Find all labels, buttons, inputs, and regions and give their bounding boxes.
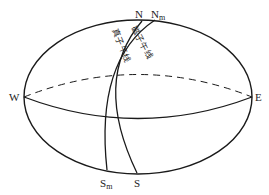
equator-front bbox=[24, 97, 252, 119]
label-south-true: S bbox=[134, 177, 140, 189]
label-south-magnetic: Sm bbox=[100, 177, 113, 191]
label-true-meridian: 真子午线 bbox=[110, 27, 133, 64]
label-east: E bbox=[255, 91, 262, 103]
label-north-true: N bbox=[135, 8, 143, 20]
label-north-magnetic: Nm bbox=[151, 8, 166, 22]
meridian-diagram: N Nm Sm S W E 真子午线 磁子午线 bbox=[0, 0, 269, 195]
equator-back-dashed bbox=[24, 75, 252, 98]
label-west: W bbox=[9, 91, 20, 103]
